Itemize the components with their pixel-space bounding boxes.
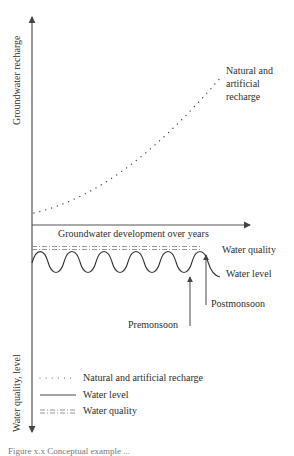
y-axis-upper-label: Groundwater recharge [11, 36, 22, 126]
water-quality-line [32, 247, 200, 250]
premonsoon-label: Premonsoon [128, 319, 178, 331]
figure-caption: Figure x.x Conceptual example ... [8, 446, 130, 456]
x-axis-label: Groundwater development over years [58, 228, 209, 240]
recharge-curve [34, 77, 221, 213]
legend-recharge-text: Natural and artificial recharge [83, 372, 203, 384]
legend-swatch-quality [40, 410, 76, 413]
water-level-wave [32, 252, 220, 278]
y-axis-lower-label: Water quality, level [11, 354, 22, 432]
legend-level-text: Water level [83, 389, 129, 401]
legend-quality-text: Water quality [83, 405, 137, 417]
recharge-label-line3: recharge [226, 91, 260, 103]
water-quality-label: Water quality [222, 244, 276, 256]
water-level-label: Water level [226, 268, 272, 280]
recharge-label-line1: Natural and [226, 65, 273, 77]
recharge-label-line2: artificial [226, 78, 260, 90]
postmonsoon-label: Postmonsoon [211, 298, 265, 310]
